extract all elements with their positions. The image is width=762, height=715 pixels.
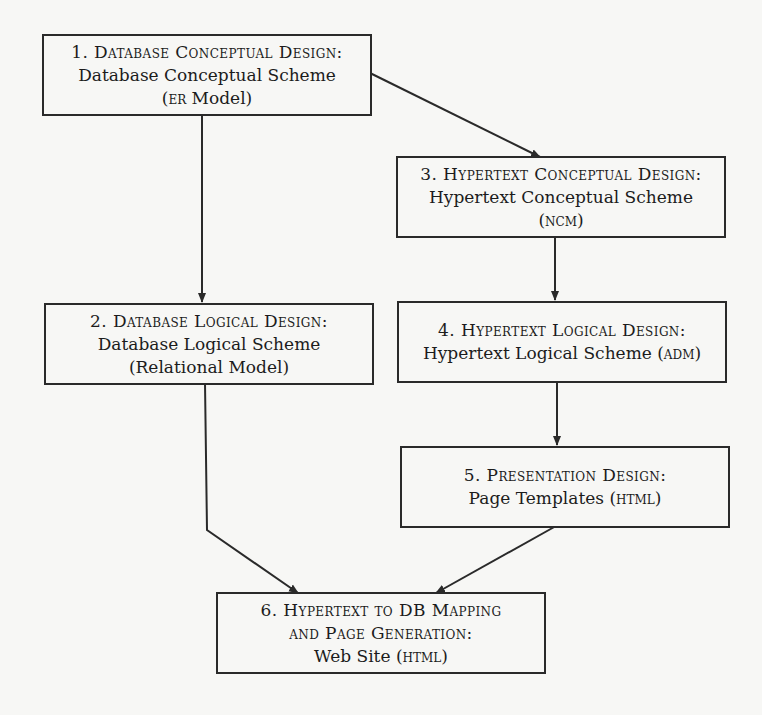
node-note: (ER Model) [162,87,253,110]
node-note: (NCM) [538,209,583,232]
node-subtitle: Hypertext Conceptual Scheme [429,186,693,209]
node-subtitle: Page Templates (HTML) [469,487,662,510]
node-hypertext-conceptual-design: 3. Hypertext Conceptual Design: Hypertex… [396,156,726,238]
node-presentation-design: 5. Presentation Design: Page Templates (… [400,446,730,528]
node-hypertext-logical-design: 4. Hypertext Logical Design: Hypertext L… [397,301,727,383]
node-hypertext-to-db-mapping: 6. Hypertext to DB Mapping and Page Gene… [216,592,546,674]
edge-5-to-6 [436,526,556,593]
node-subtitle: Database Conceptual Scheme [78,64,336,87]
node-title: 2. Database Logical Design: [90,310,328,333]
edge-1-to-3 [370,73,540,157]
node-subtitle: Web Site (HTML) [314,645,448,668]
node-title: 5. Presentation Design: [464,464,667,487]
node-title: 3. Hypertext Conceptual Design: [420,163,701,186]
node-note: (Relational Model) [129,356,289,379]
node-title: 1. Database Conceptual Design: [71,41,342,64]
node-database-conceptual-design: 1. Database Conceptual Design: Database … [42,34,372,116]
node-subtitle: Database Logical Scheme [98,333,321,356]
node-title-line2: and Page Generation: [289,622,473,645]
node-database-logical-design: 2. Database Logical Design: Database Log… [44,303,374,385]
edge-2-to-6 [205,383,298,593]
node-title: 4. Hypertext Logical Design: [438,319,686,342]
node-subtitle: Hypertext Logical Scheme (ADM) [423,342,701,365]
node-title: 6. Hypertext to DB Mapping [261,599,502,622]
